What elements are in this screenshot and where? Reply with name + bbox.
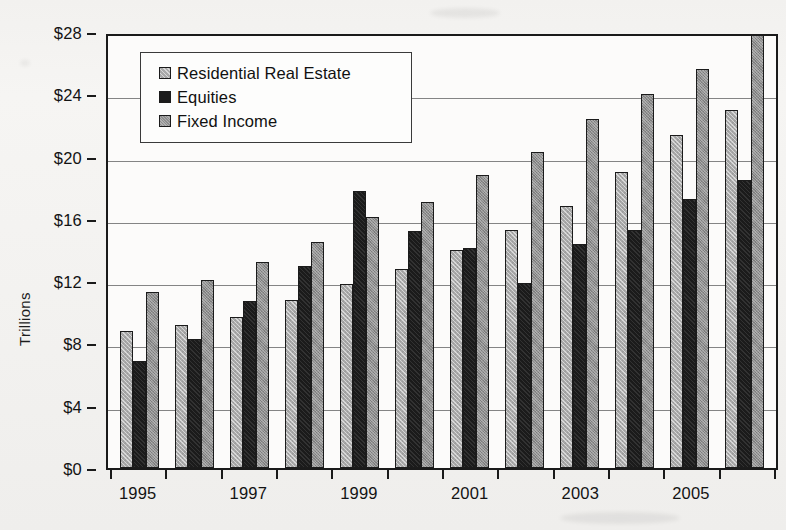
y-axis-tick	[87, 33, 96, 35]
bar	[476, 175, 489, 468]
bar	[505, 230, 518, 468]
legend-item: Fixed Income	[159, 109, 401, 133]
bar	[696, 69, 709, 468]
bar	[311, 242, 324, 468]
x-axis-tick	[553, 470, 555, 479]
bar	[408, 231, 421, 468]
bar	[340, 284, 353, 468]
x-axis-tick	[719, 470, 721, 479]
bar	[615, 172, 628, 468]
y-axis-tick-label: $0	[63, 460, 82, 479]
bar	[146, 292, 159, 468]
y-axis-tick	[87, 282, 96, 284]
y-axis-tick-label: $4	[63, 398, 82, 417]
bar-group	[552, 36, 607, 468]
bar	[120, 331, 133, 468]
bar	[518, 283, 531, 468]
x-axis-tick	[276, 470, 278, 479]
bar	[188, 339, 201, 468]
bar-group	[607, 36, 662, 468]
x-axis-tick	[110, 470, 112, 479]
y-axis-tick	[87, 95, 96, 97]
y-axis-tick	[87, 469, 96, 471]
bar-chart: Trillions $0$4$8$12$16$20$24$28 19951997…	[0, 0, 786, 530]
legend-item-label: Equities	[177, 88, 237, 107]
bar-group	[497, 36, 552, 468]
scan-smudge	[430, 8, 500, 18]
bar	[243, 301, 256, 468]
x-axis-tick	[165, 470, 167, 479]
bar	[670, 135, 683, 468]
bar-group	[662, 36, 717, 468]
y-axis-tick-label: $12	[54, 273, 82, 292]
y-axis-tick	[87, 158, 96, 160]
x-axis-tick	[331, 470, 333, 479]
x-axis-tick-label: 1997	[230, 484, 268, 503]
bar	[463, 248, 476, 468]
bar	[175, 325, 188, 468]
legend: Residential Real EstateEquitiesFixed Inc…	[140, 52, 412, 143]
bar	[641, 94, 654, 468]
legend-swatch-icon	[159, 115, 171, 127]
bar	[586, 119, 599, 468]
y-axis-tick-label: $28	[54, 24, 82, 43]
bar	[366, 217, 379, 468]
bar-group	[717, 36, 772, 468]
y-axis-tick-label: $8	[63, 335, 82, 354]
x-axis-tick	[442, 470, 444, 479]
bar	[725, 110, 738, 468]
bar	[201, 280, 214, 468]
bar	[751, 35, 764, 468]
legend-swatch-icon	[159, 91, 171, 103]
scan-smudge	[20, 60, 30, 66]
bar	[395, 269, 408, 468]
bar	[628, 230, 641, 468]
bar	[353, 191, 366, 468]
x-axis-tick	[608, 470, 610, 479]
bar	[256, 262, 269, 468]
x-axis-tick-label: 2003	[562, 484, 600, 503]
bar	[573, 244, 586, 468]
bar	[133, 361, 146, 468]
bar	[230, 317, 243, 468]
y-axis-tick	[87, 220, 96, 222]
y-axis-tick-label: $20	[54, 149, 82, 168]
legend-item: Equities	[159, 85, 401, 109]
y-axis-tick	[87, 344, 96, 346]
bar	[683, 199, 696, 468]
x-axis-tick	[774, 470, 776, 479]
bar	[450, 250, 463, 468]
y-axis-tick	[87, 407, 96, 409]
y-axis-tick-label: $16	[54, 211, 82, 230]
bar	[421, 202, 434, 468]
x-axis-tick-label: 1995	[119, 484, 157, 503]
x-axis-tick	[221, 470, 223, 479]
y-axis-tick-label: $24	[54, 86, 82, 105]
bar	[298, 266, 311, 468]
scan-smudge	[560, 512, 680, 524]
legend-swatch-icon	[159, 67, 171, 79]
bar	[285, 300, 298, 468]
x-axis-tick-label: 2001	[451, 484, 489, 503]
bar	[738, 180, 751, 468]
x-axis-tick-label: 2005	[672, 484, 710, 503]
y-axis-tick-labels: $0$4$8$12$16$20$24$28	[0, 34, 96, 470]
x-axis-tick	[387, 470, 389, 479]
legend-item-label: Residential Real Estate	[177, 64, 351, 83]
x-axis-tick	[497, 470, 499, 479]
x-axis-tick-label: 1999	[340, 484, 378, 503]
x-axis-tick	[663, 470, 665, 479]
bar	[531, 152, 544, 468]
legend-item-label: Fixed Income	[177, 112, 277, 131]
bar-group	[442, 36, 497, 468]
legend-item: Residential Real Estate	[159, 61, 401, 85]
bar	[560, 206, 573, 468]
